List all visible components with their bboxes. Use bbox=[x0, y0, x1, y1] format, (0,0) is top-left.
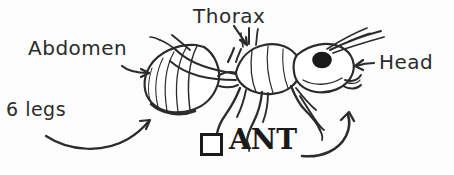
arrow-ant bbox=[302, 112, 354, 156]
ant-diagram-figure: Abdomen Thorax Head 6 legs ANT bbox=[0, 0, 454, 175]
arrow-legs bbox=[46, 120, 150, 149]
ant-head bbox=[294, 44, 361, 92]
label-abdomen: Abdomen bbox=[28, 38, 127, 58]
arrow-head bbox=[355, 60, 374, 70]
label-thorax: Thorax bbox=[193, 6, 265, 26]
label-ant: ANT bbox=[229, 126, 297, 154]
label-head: Head bbox=[379, 52, 433, 72]
arrow-thorax bbox=[234, 26, 247, 45]
ant-eye bbox=[313, 53, 331, 68]
arrow-abdomen bbox=[122, 66, 149, 77]
label-6-legs: 6 legs bbox=[6, 100, 66, 119]
ant-checkbox[interactable] bbox=[200, 133, 223, 156]
